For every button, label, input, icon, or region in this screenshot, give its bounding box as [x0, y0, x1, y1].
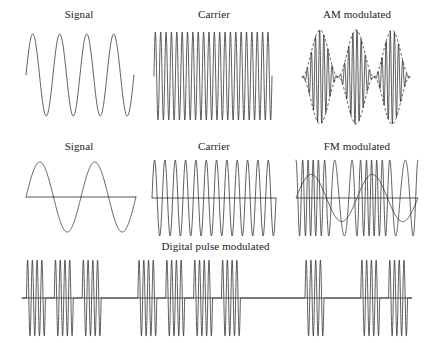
waveform-plot-am-signal — [26, 34, 134, 116]
waveform-plot-fm-signal — [26, 162, 136, 232]
waveform-plot-am-carrier — [154, 32, 272, 120]
panel-am-modulated: AM modulated — [288, 8, 426, 120]
panel-label-fm-carrier: Carrier — [144, 140, 284, 153]
panel-label-am-signal: Signal — [14, 8, 144, 21]
panel-am-carrier: Carrier — [144, 8, 284, 120]
waveform-plot-fm-modulated — [296, 160, 418, 236]
waveform-plot-fm-carrier — [152, 160, 276, 236]
panel-digital-pulse-modulated: Digital pulse modulated — [8, 240, 423, 340]
waveform-plot-digital-pulse-modulated — [22, 260, 412, 336]
waveform-am-modulated — [302, 30, 410, 124]
modulation-figure: SignalCarrierAM modulatedSignalCarrierFM… — [0, 0, 431, 343]
panel-fm-carrier: Carrier — [144, 140, 284, 236]
panel-label-fm-modulated: FM modulated — [288, 140, 426, 153]
waveform-digital-pulse-modulated — [22, 260, 412, 336]
panel-am-signal: Signal — [14, 8, 144, 120]
panel-label-digital-pulse-modulated: Digital pulse modulated — [8, 240, 423, 253]
panel-label-fm-signal: Signal — [14, 140, 144, 153]
panel-label-am-carrier: Carrier — [144, 8, 284, 21]
waveform-plot-am-modulated — [302, 30, 410, 124]
panel-fm-modulated: FM modulated — [288, 140, 426, 236]
panel-label-am-modulated: AM modulated — [288, 8, 426, 21]
waveform-am-carrier — [154, 32, 272, 120]
waveform-am-signal — [26, 34, 134, 116]
panel-fm-signal: Signal — [14, 140, 144, 236]
